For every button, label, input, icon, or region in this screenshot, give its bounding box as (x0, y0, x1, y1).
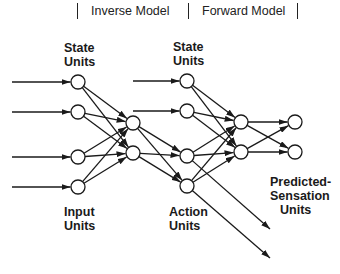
units (71, 74, 302, 194)
forward-hidden-layer-unit (234, 145, 248, 159)
forward-input-layer-unit (180, 179, 194, 193)
forward-hidden-layer-unit (234, 115, 248, 129)
inverse-input-layer-unit (71, 105, 85, 119)
forward-input-layer-unit (180, 149, 194, 163)
inverse-hidden-layer-unit (126, 146, 140, 160)
inverse-input-layer-unit (71, 180, 85, 194)
forward-connection (192, 128, 237, 181)
forward-connection (193, 126, 235, 152)
inverse-connection (85, 113, 126, 121)
predicted-sensation-layer-unit (288, 145, 302, 159)
forward-connection (193, 85, 235, 117)
predicted-sensation-layer-unit (288, 115, 302, 129)
forward-connection (194, 112, 234, 120)
inverse-output-connection (139, 157, 181, 182)
inverse-connection (84, 86, 127, 118)
inverse-output-connection (139, 127, 181, 152)
action-output-arrow (192, 161, 270, 229)
inverse-connection (83, 129, 129, 182)
forward-input-layer-unit (180, 74, 194, 88)
inverse-input-layer-unit (71, 75, 85, 89)
inverse-hidden-layer-unit (126, 116, 140, 130)
connections (12, 81, 288, 258)
forward-connection (193, 156, 235, 182)
network-diagram (0, 0, 340, 274)
forward-input-layer-unit (180, 104, 194, 118)
inverse-connection (84, 127, 127, 153)
inverse-connection (84, 157, 127, 183)
action-output-arrow (192, 191, 270, 258)
inverse-input-layer-unit (71, 150, 85, 164)
